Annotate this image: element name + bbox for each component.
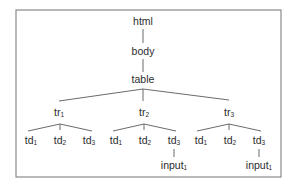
node-label: td xyxy=(110,134,119,146)
edge-tr2-tr2_td3 xyxy=(144,124,176,131)
node-label: td xyxy=(139,134,148,146)
node-subscript: 3 xyxy=(262,139,266,146)
node-html: html xyxy=(133,15,153,27)
node-label: td xyxy=(253,134,262,146)
node-subscript: 1 xyxy=(184,164,188,171)
node-label: td xyxy=(224,134,233,146)
node-tr2_td3: td3 xyxy=(168,134,181,146)
node-subscript: 3 xyxy=(230,111,234,118)
node-tr1: tr1 xyxy=(54,106,64,118)
node-tr3_td1: td1 xyxy=(195,134,208,146)
node-subscript: 3 xyxy=(92,139,96,146)
node-tr3_td3: td3 xyxy=(253,134,266,146)
node-subscript: 2 xyxy=(63,139,67,146)
edge-tr3-tr3_td1 xyxy=(197,124,229,131)
node-subscript: 2 xyxy=(148,139,152,146)
edge-table-tr3 xyxy=(143,89,229,100)
node-subscript: 2 xyxy=(145,111,149,118)
edge-table-tr1 xyxy=(59,89,143,101)
node-label: td xyxy=(168,134,177,146)
diagram-frame xyxy=(16,10,281,177)
node-label: td xyxy=(83,134,92,146)
tree-nodes: htmlbodytabletr1tr2tr3td1td2td3td1td2td3… xyxy=(25,15,273,171)
node-table: table xyxy=(132,73,155,85)
node-tr2_input1: input1 xyxy=(161,159,188,171)
node-subscript: 1 xyxy=(204,139,208,146)
node-label: td xyxy=(25,134,34,146)
node-body: body xyxy=(132,45,156,57)
node-tr2: tr2 xyxy=(139,106,149,118)
node-tr2_td1: td1 xyxy=(110,134,123,146)
node-tr2_td2: td2 xyxy=(139,134,152,146)
node-subscript: 1 xyxy=(34,139,38,146)
edge-tr1-tr1_td1 xyxy=(28,124,60,131)
edge-tr2-tr2_td1 xyxy=(113,124,144,131)
node-tr3_td2: td2 xyxy=(224,134,237,146)
node-tr3_input1: input1 xyxy=(246,159,273,171)
node-tr1_td2: td2 xyxy=(54,134,67,146)
node-tr1_td1: td1 xyxy=(25,134,38,146)
node-label: td xyxy=(195,134,204,146)
node-tr1_td3: td3 xyxy=(83,134,96,146)
edge-tr1-tr1_td3 xyxy=(60,124,92,131)
node-label: input xyxy=(246,159,269,171)
node-label: td xyxy=(54,134,63,146)
edge-tr3-tr3_td3 xyxy=(229,124,261,131)
node-label: input xyxy=(161,159,184,171)
node-tr3: tr3 xyxy=(224,106,234,118)
dom-tree-diagram: htmlbodytabletr1tr2tr3td1td2td3td1td2td3… xyxy=(0,0,294,188)
node-subscript: 2 xyxy=(233,139,237,146)
node-subscript: 3 xyxy=(177,139,181,146)
node-subscript: 1 xyxy=(269,164,273,171)
node-subscript: 1 xyxy=(60,111,64,118)
node-subscript: 1 xyxy=(119,139,123,146)
node-label: html xyxy=(133,15,153,27)
node-label: body xyxy=(132,45,156,57)
node-label: table xyxy=(132,73,155,85)
